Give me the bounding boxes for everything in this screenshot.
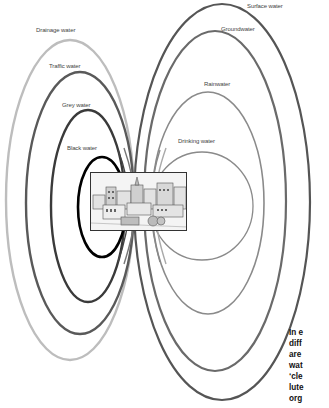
label-black-water: Black water <box>67 145 97 151</box>
caption-line: diff <box>289 338 329 349</box>
label-drinking-water: Drinking water <box>178 138 215 144</box>
town-illustration <box>90 172 187 231</box>
caption-line: ‘cle <box>289 371 329 382</box>
label-grey-water: Grey water <box>62 102 90 108</box>
town-sketch-icon <box>91 173 187 231</box>
caption-line: are <box>289 349 329 360</box>
caption-line: lute <box>289 382 329 393</box>
caption-line: org <box>289 393 329 404</box>
caption-line: wat <box>289 360 329 371</box>
label-traffic-water: Traffic water <box>49 63 80 69</box>
label-groundwater: Groundwater <box>221 26 255 32</box>
figure-caption: In e diff are wat ‘cle lute org <box>289 327 329 404</box>
caption-line: In e <box>289 327 329 338</box>
label-drainage-water: Drainage water <box>36 27 75 33</box>
label-rainwater: Rainwater <box>204 81 230 87</box>
label-surface-water: Surface water <box>247 3 283 9</box>
